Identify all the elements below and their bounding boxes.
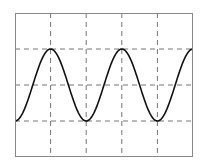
oscilloscope-chart bbox=[0, 0, 201, 161]
